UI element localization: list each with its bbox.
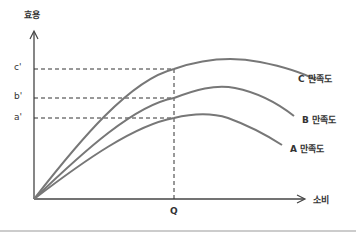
curve-b-label: B 만족도: [302, 113, 336, 126]
curve-a-label: A 만족도: [290, 142, 324, 155]
curve-c: [34, 59, 316, 199]
level-a-label: a': [14, 112, 22, 122]
curve-a: [34, 114, 282, 199]
level-b-label: b': [14, 91, 22, 101]
curve-b: [34, 87, 294, 199]
q-label: Q: [170, 206, 178, 216]
curve-c-label: C 만족도: [298, 72, 332, 85]
x-axis-label: 소비: [313, 193, 329, 206]
y-axis-label: 효용: [24, 8, 40, 21]
level-c-label: c': [14, 62, 21, 72]
